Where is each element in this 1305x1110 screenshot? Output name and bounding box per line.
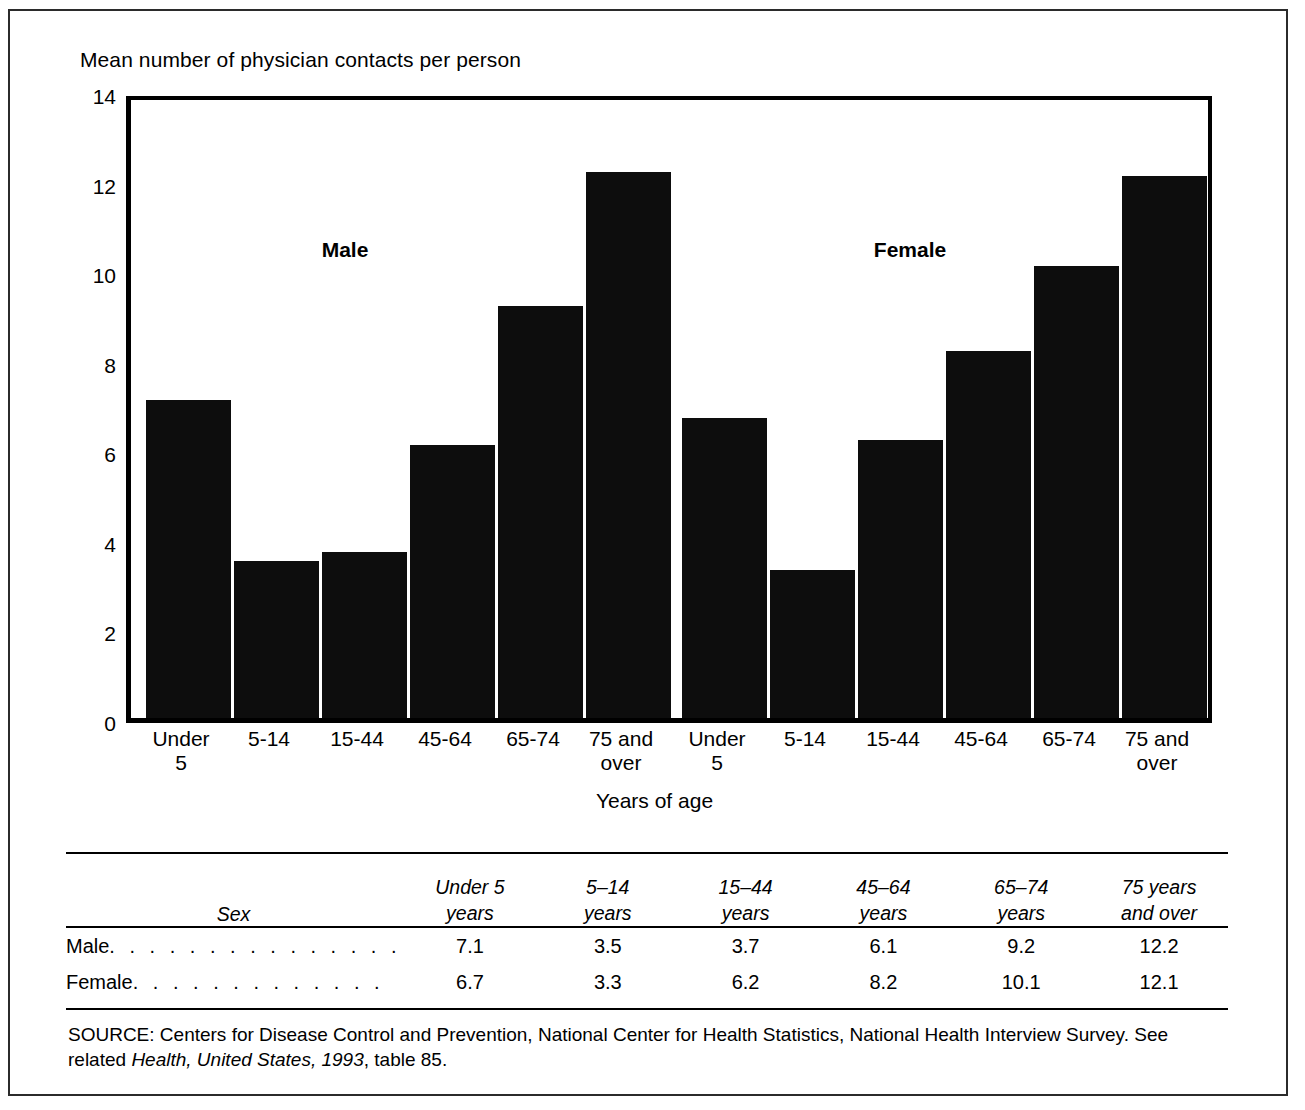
x-label-line1: 65-74 (485, 727, 581, 751)
y-tick-label-12: 12 (56, 176, 116, 197)
bar-female-65-74 (1034, 266, 1119, 718)
y-tick-label-6: 6 (56, 444, 116, 465)
cell-male-45-64: 6.1 (815, 926, 953, 966)
row-label-text: Male (66, 935, 109, 957)
source-line1: SOURCE: Centers for Disease Control and … (68, 1024, 1061, 1045)
x-label-line1: 45-64 (397, 727, 493, 751)
header-line1: Under 5 (401, 874, 539, 900)
plot-area (126, 96, 1212, 723)
cell-female-75-over: 12.1 (1090, 966, 1228, 998)
source-note: SOURCE: Centers for Disease Control and … (68, 1022, 1224, 1072)
x-axis-title: Years of age (0, 789, 1305, 813)
cell-male-75-over: 12.2 (1090, 926, 1228, 966)
header-line2: years (952, 900, 1090, 926)
x-label-female-75-over: 75 and over (1109, 727, 1205, 775)
x-label-female-under-5: Under 5 (669, 727, 765, 775)
row-leader-dots: . . . . . . . . . . . . . . . (109, 935, 401, 957)
header-line1: 5–14 (539, 874, 677, 900)
table-header-45-64: 45–64 years (815, 852, 953, 926)
bars-layer (131, 100, 1208, 718)
header-line2: years (401, 900, 539, 926)
header-line2: years (815, 900, 953, 926)
table-row: Female. . . . . . . . . . . . . 6.7 3.3 … (66, 966, 1228, 998)
header-line2: years (539, 900, 677, 926)
y-tick-label-4: 4 (56, 534, 116, 555)
header-line1: 45–64 (815, 874, 953, 900)
x-label-line1: Under (133, 727, 229, 751)
bar-male-5-14 (234, 561, 319, 718)
row-leader-dots: . . . . . . . . . . . . . (133, 971, 384, 993)
x-label-female-65-74: 65-74 (1021, 727, 1117, 751)
cell-female-5-14: 3.3 (539, 966, 677, 998)
table-rule-bottom (66, 1008, 1228, 1010)
cell-female-65-74: 10.1 (952, 966, 1090, 998)
table-header-65-74: 65–74 years (952, 852, 1090, 926)
figure-root: Mean number of physician contacts per pe… (0, 0, 1305, 1110)
cell-male-15-44: 3.7 (677, 926, 815, 966)
table-header-row: Sex Under 5 years 5–14 years 15–44 years (66, 852, 1228, 926)
bar-female-75-over (1122, 176, 1207, 718)
y-tick-label-2: 2 (56, 623, 116, 644)
x-label-line2: 5 (133, 751, 229, 775)
x-label-male-5-14: 5-14 (221, 727, 317, 751)
x-label-female-5-14: 5-14 (757, 727, 853, 751)
header-line2: and over (1090, 900, 1228, 926)
x-axis-title-text: Years of age (596, 789, 713, 812)
table-row: Male. . . . . . . . . . . . . . . 7.1 3.… (66, 926, 1228, 966)
table-head: Sex Under 5 years 5–14 years 15–44 years (66, 852, 1228, 926)
table-header-sex: Sex (66, 852, 401, 926)
cell-male-under-5: 7.1 (401, 926, 539, 966)
bar-male-65-74 (498, 306, 583, 718)
table-body: Male. . . . . . . . . . . . . . . 7.1 3.… (66, 926, 1228, 998)
x-label-male-15-44: 15-44 (309, 727, 405, 751)
bar-male-75-over (586, 172, 671, 718)
y-tick-label-0: 0 (56, 713, 116, 734)
x-label-line1: 75 and (1109, 727, 1205, 751)
bar-male-15-44 (322, 552, 407, 718)
group-label-female: Female (845, 238, 975, 262)
cell-female-under-5: 6.7 (401, 966, 539, 998)
x-label-line2: 5 (669, 751, 765, 775)
x-label-line1: 15-44 (309, 727, 405, 751)
header-line1: 75 years (1090, 874, 1228, 900)
y-tick-label-8: 8 (56, 355, 116, 376)
x-label-line1: 45-64 (933, 727, 1029, 751)
table-header-75-over: 75 years and over (1090, 852, 1228, 926)
x-label-male-45-64: 45-64 (397, 727, 493, 751)
x-label-male-75-over: 75 and over (573, 727, 669, 775)
x-label-line1: 15-44 (845, 727, 941, 751)
group-label-male: Male (290, 238, 400, 262)
x-label-line2: over (573, 751, 669, 775)
cell-male-65-74: 9.2 (952, 926, 1090, 966)
x-label-line1: 75 and (573, 727, 669, 751)
cell-male-5-14: 3.5 (539, 926, 677, 966)
chart-title: Mean number of physician contacts per pe… (80, 48, 521, 72)
y-tick-label-10: 10 (56, 265, 116, 286)
x-label-female-45-64: 45-64 (933, 727, 1029, 751)
x-label-line1: 65-74 (1021, 727, 1117, 751)
bar-female-under-5 (682, 418, 767, 718)
bar-male-45-64 (410, 445, 495, 718)
x-label-line2: over (1109, 751, 1205, 775)
bar-male-under-5 (146, 400, 231, 718)
cell-female-45-64: 8.2 (815, 966, 953, 998)
row-label-male: Male. . . . . . . . . . . . . . . (66, 926, 401, 966)
cell-female-15-44: 6.2 (677, 966, 815, 998)
x-label-male-65-74: 65-74 (485, 727, 581, 751)
source-line2-suffix: , table 85. (364, 1049, 447, 1070)
x-label-line1: 5-14 (221, 727, 317, 751)
bar-female-15-44 (858, 440, 943, 718)
x-label-female-15-44: 15-44 (845, 727, 941, 751)
source-publication-title: Health, United States, 1993 (131, 1049, 363, 1070)
bar-female-45-64 (946, 351, 1031, 718)
header-line1: 15–44 (677, 874, 815, 900)
table-element: Sex Under 5 years 5–14 years 15–44 years (66, 852, 1228, 998)
table-header-15-44: 15–44 years (677, 852, 815, 926)
x-label-line1: 5-14 (757, 727, 853, 751)
x-label-line1: Under (669, 727, 765, 751)
header-line1: 65–74 (952, 874, 1090, 900)
y-tick-label-14: 14 (56, 86, 116, 107)
x-label-male-under-5: Under 5 (133, 727, 229, 775)
row-label-text: Female (66, 971, 133, 993)
bar-female-5-14 (770, 570, 855, 718)
